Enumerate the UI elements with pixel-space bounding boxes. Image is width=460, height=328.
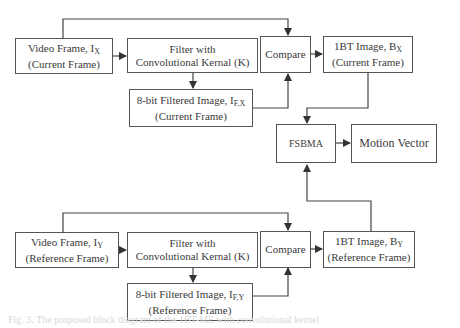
onebt-image-reference-sublabel: (Reference Frame) xyxy=(328,251,411,264)
video-frame-current-label: Video Frame, I xyxy=(28,42,94,54)
video-frame-current-box: Video Frame, IX (Current Frame) xyxy=(15,38,113,74)
video-frame-reference-label: Video Frame, I xyxy=(31,236,97,248)
figure-caption: Fig. 3. The proposed block diagram of th… xyxy=(8,314,319,325)
fsbma-box: FSBMA xyxy=(276,124,336,163)
filter-reference-box: Filter with Convolutional Kernal (K) xyxy=(127,232,258,268)
filtered-image-current-box: 8-bit Filtered Image, IF,X (Current Fram… xyxy=(129,89,253,127)
subscript: F,X xyxy=(234,99,246,108)
compare-current-box: Compare xyxy=(260,36,311,73)
motion-vector-box: Motion Vector xyxy=(351,124,437,163)
filter-reference-sublabel: Convolutional Kernal (K) xyxy=(136,250,250,263)
onebt-image-reference-box: 1BT Image, BY (Reference Frame) xyxy=(323,231,415,268)
video-frame-reference-sublabel: (Reference Frame) xyxy=(26,252,109,265)
onebt-image-current-box: 1BT Image, BX (Current Frame) xyxy=(323,36,413,73)
video-frame-reference-box: Video Frame, IY (Reference Frame) xyxy=(15,232,119,268)
video-frame-current-sublabel: (Current Frame) xyxy=(28,58,100,71)
filter-current-label: Filter with xyxy=(169,43,215,56)
subscript: Y xyxy=(97,241,103,250)
motion-vector-label: Motion Vector xyxy=(359,137,428,150)
filtered-image-reference-label: 8-bit Filtered Image, I xyxy=(136,288,233,300)
onebt-image-reference-label: 1BT Image, B xyxy=(335,235,397,247)
fsbma-label: FSBMA xyxy=(289,137,323,150)
subscript: X xyxy=(396,45,402,54)
compare-current-label: Compare xyxy=(265,48,305,61)
compare-reference-label: Compare xyxy=(265,243,305,256)
filter-reference-label: Filter with xyxy=(169,237,215,250)
onebt-image-current-label: 1BT Image, B xyxy=(334,40,396,52)
filtered-image-current-label: 8-bit Filtered Image, I xyxy=(137,94,234,106)
filtered-image-current-sublabel: (Current Frame) xyxy=(155,110,227,123)
filter-current-box: Filter with Convolutional Kernal (K) xyxy=(127,38,258,73)
compare-reference-box: Compare xyxy=(260,231,311,268)
subscript: Y xyxy=(397,240,403,249)
subscript: F,Y xyxy=(233,293,245,302)
onebt-image-current-sublabel: (Current Frame) xyxy=(332,56,404,69)
filter-current-sublabel: Convolutional Kernal (K) xyxy=(136,56,250,69)
subscript: X xyxy=(94,47,100,56)
